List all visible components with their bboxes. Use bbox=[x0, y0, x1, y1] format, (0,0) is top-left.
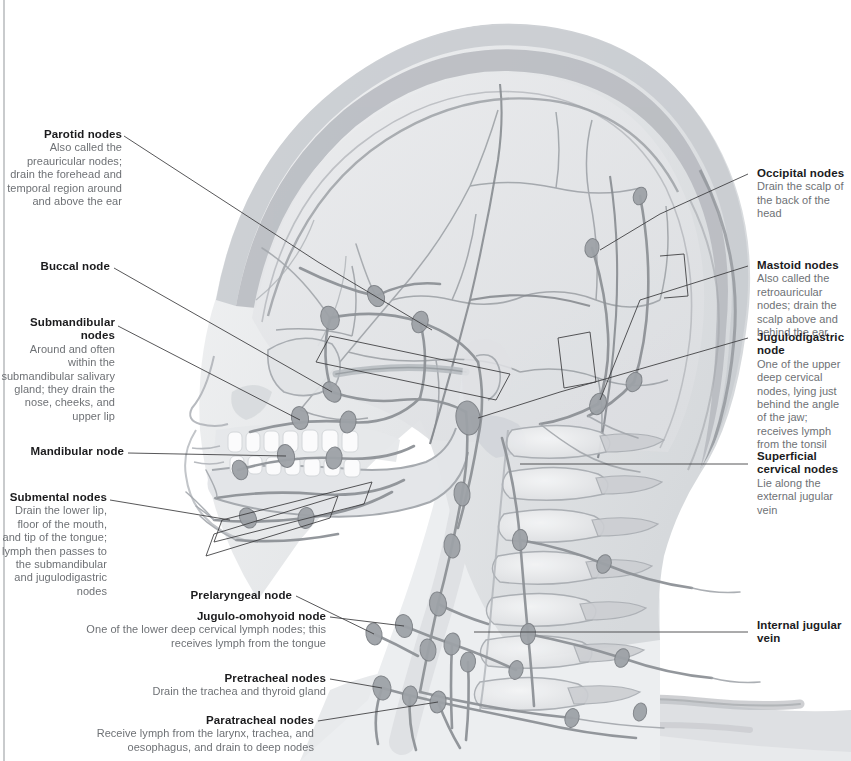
label-heading: Parotid nodes bbox=[0, 128, 122, 141]
label-body: One of the lower deep cervical lymph nod… bbox=[70, 623, 326, 650]
label-jugulodigastric-node: Jugulodigastric node One of the upper de… bbox=[757, 331, 851, 452]
label-body: Lie along the external jugular vein bbox=[757, 477, 851, 517]
label-body: Drain the trachea and thyroid gland bbox=[110, 685, 326, 698]
label-mastoid-nodes: Mastoid nodes Also called the retroauric… bbox=[757, 259, 851, 339]
label-heading: Pretracheal nodes bbox=[110, 672, 326, 685]
label-body: Drain the scalp of the back of the head bbox=[757, 180, 851, 220]
label-submental-nodes: Submental nodes Drain the lower lip, flo… bbox=[0, 491, 107, 598]
label-body: One of the upper deep cervical nodes, ly… bbox=[757, 358, 851, 452]
label-heading: Mastoid nodes bbox=[757, 259, 851, 272]
label-superficial-cervical-nodes: Superficial cervical nodes Lie along the… bbox=[757, 450, 851, 517]
label-heading: Prelaryngeal node bbox=[100, 589, 292, 602]
label-internal-jugular-vein: Internal jugular vein bbox=[757, 619, 851, 646]
label-heading: Superficial cervical nodes bbox=[757, 450, 851, 477]
label-heading: Internal jugular vein bbox=[757, 619, 851, 646]
label-heading: Mandibular node bbox=[0, 445, 124, 458]
label-body: Drain the lower lip, floor of the mouth,… bbox=[0, 504, 107, 598]
label-heading: Buccal node bbox=[0, 260, 110, 273]
label-body: Also called the retroauricular nodes; dr… bbox=[757, 272, 851, 339]
label-heading: Submandibular nodes bbox=[0, 316, 115, 343]
label-occipital-nodes: Occipital nodes Drain the scalp of the b… bbox=[757, 167, 851, 221]
label-heading: Jugulo-omohyoid node bbox=[70, 610, 326, 623]
label-parotid-nodes: Parotid nodes Also called the preauricul… bbox=[0, 128, 122, 208]
label-body: Around and often within the submandibula… bbox=[0, 343, 115, 423]
label-heading: Paratracheal nodes bbox=[40, 714, 314, 727]
label-heading: Submental nodes bbox=[0, 491, 107, 504]
figure-page: Parotid nodes Also called the preauricul… bbox=[0, 0, 851, 761]
label-prelaryngeal-node: Prelaryngeal node bbox=[100, 589, 292, 602]
label-body: Also called the preauricular nodes; drai… bbox=[0, 141, 122, 208]
label-paratracheal-nodes: Paratracheal nodes Receive lymph from th… bbox=[40, 714, 314, 754]
label-buccal-node: Buccal node bbox=[0, 260, 110, 273]
label-heading: Jugulodigastric node bbox=[757, 331, 851, 358]
label-pretracheal-nodes: Pretracheal nodes Drain the trachea and … bbox=[110, 672, 326, 699]
label-mandibular-node: Mandibular node bbox=[0, 445, 124, 458]
label-heading: Occipital nodes bbox=[757, 167, 851, 180]
label-body: Receive lymph from the larynx, trachea, … bbox=[40, 727, 314, 754]
label-jugulo-omohyoid-node: Jugulo-omohyoid node One of the lower de… bbox=[70, 610, 326, 650]
label-submandibular-nodes: Submandibular nodes Around and often wit… bbox=[0, 316, 115, 423]
